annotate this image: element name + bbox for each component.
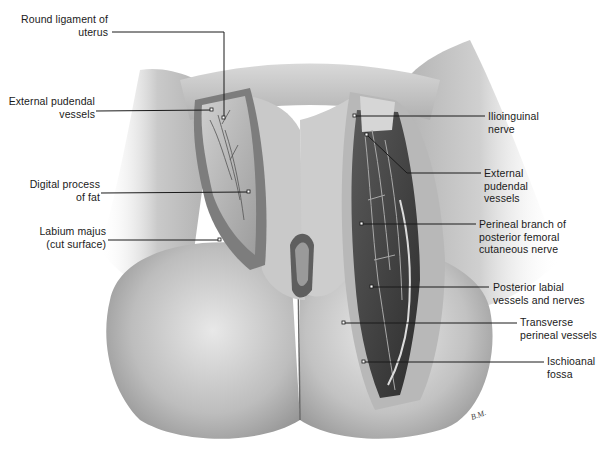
label-labium-majus: Labium majus (cut surface)	[4, 225, 106, 250]
anatomy-figure: B.M. Round ligament of uterus External p…	[0, 0, 602, 463]
label-ilioinguinal-nerve: Ilioinguinal nerve	[488, 110, 539, 135]
label-transverse-perineal: Transverse perineal vessels	[520, 316, 597, 341]
label-external-pudendal-right: External pudendal vessels	[484, 167, 528, 205]
label-perineal-branch: Perineal branch of posterior femoral cut…	[479, 218, 566, 256]
label-posterior-labial: Posterior labial vessels and nerves	[493, 281, 585, 306]
label-external-pudendal-left: External pudendal vessels	[2, 95, 95, 120]
artist-signature: B.M.	[470, 408, 488, 422]
label-digital-process: Digital process of fat	[4, 178, 100, 203]
label-round-ligament: Round ligament of uterus	[14, 13, 108, 38]
label-ischioanal-fossa: Ischioanal fossa	[547, 355, 595, 380]
